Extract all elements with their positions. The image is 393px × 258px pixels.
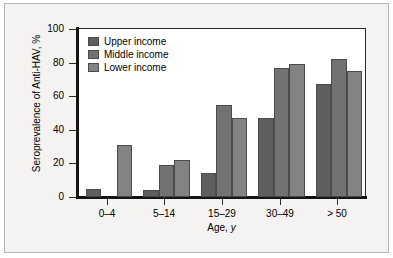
- bar: [331, 59, 347, 197]
- y-tick-mark: [69, 29, 76, 30]
- y-axis-title: Seroprevalence of Anti-HAV, %: [31, 24, 42, 184]
- x-axis-title-unit: y: [231, 222, 236, 233]
- bar: [289, 64, 305, 197]
- y-tick-mark: [69, 197, 76, 198]
- legend-swatch-icon: [88, 37, 99, 46]
- bar: [274, 68, 290, 197]
- x-tick-mark: [280, 199, 281, 205]
- y-tick-mark: [69, 163, 76, 164]
- bar: [258, 118, 274, 197]
- legend-item: Middle income: [88, 49, 208, 60]
- legend-item: Lower income: [88, 62, 208, 73]
- bar: [316, 84, 332, 197]
- x-tick-label: 0–4: [77, 208, 137, 219]
- legend-label: Middle income: [104, 49, 168, 60]
- y-tick-mark: [69, 130, 76, 131]
- bar: [143, 190, 159, 197]
- x-tick-label: 30–49: [250, 208, 310, 219]
- legend-item: Upper income: [88, 36, 208, 47]
- x-tick-mark: [222, 199, 223, 205]
- x-tick-label: > 50: [307, 208, 367, 219]
- legend-label: Upper income: [104, 36, 166, 47]
- y-tick-mark: [69, 63, 76, 64]
- legend-swatch-icon: [88, 63, 99, 72]
- x-axis-title: Age, y: [77, 222, 366, 233]
- bar: [216, 105, 232, 197]
- y-tick-label: 80: [38, 58, 64, 68]
- bar: [201, 173, 217, 197]
- figure-container: 020406080100 0–45–1415–2930–49> 50 Upper…: [0, 0, 393, 258]
- y-tick-label: 40: [38, 125, 64, 135]
- y-tick-label: 100: [38, 24, 64, 34]
- bar: [174, 160, 190, 197]
- legend-swatch-icon: [88, 50, 99, 59]
- x-axis-title-text: Age,: [207, 222, 230, 233]
- x-tick-mark: [107, 199, 108, 205]
- bar: [117, 145, 133, 197]
- x-tick-mark: [337, 199, 338, 205]
- y-tick-label: 60: [38, 91, 64, 101]
- bar: [347, 71, 363, 197]
- bar: [232, 118, 248, 197]
- x-tick-label: 5–14: [134, 208, 194, 219]
- x-tick-mark: [164, 199, 165, 205]
- bar: [86, 189, 102, 197]
- x-tick-label: 15–29: [192, 208, 252, 219]
- bar: [159, 165, 175, 197]
- y-tick-mark: [69, 96, 76, 97]
- legend-label: Lower income: [104, 62, 166, 73]
- chart-legend: Upper incomeMiddle incomeLower income: [88, 36, 208, 75]
- y-tick-label: 20: [38, 158, 64, 168]
- y-tick-label: 0: [38, 192, 64, 202]
